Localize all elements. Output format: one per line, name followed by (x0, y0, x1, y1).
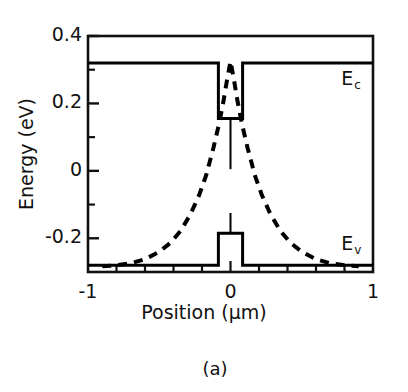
valence-band-subscript: v (354, 243, 361, 257)
conduction-band-symbol: E (341, 67, 353, 89)
y-tick-label-2: 0 (0, 158, 82, 180)
band-diagram-plot (0, 0, 408, 392)
figure-caption: (a) (0, 358, 408, 379)
x-tick-label-2: 1 (333, 280, 408, 302)
valence-band-symbol: E (341, 232, 353, 254)
conduction-band-label: Ec (341, 67, 360, 89)
x-tick-label-1: 0 (191, 280, 271, 302)
band-diagram-figure: Energy (eV) Position (µm) 0.4 0.2 0 -0.2… (0, 0, 408, 392)
x-axis-title: Position (µm) (0, 301, 408, 323)
y-axis-title: Energy (eV) (15, 98, 37, 210)
y-tick-label-0: 0.4 (0, 23, 82, 45)
valence-band-label: Ev (341, 232, 360, 254)
conduction-band-subscript: c (354, 78, 361, 92)
series-Ev (88, 233, 373, 265)
y-tick-label-1: 0.2 (0, 90, 82, 112)
y-tick-label-3: -0.2 (0, 225, 82, 247)
x-tick-label-0: -1 (48, 280, 128, 302)
